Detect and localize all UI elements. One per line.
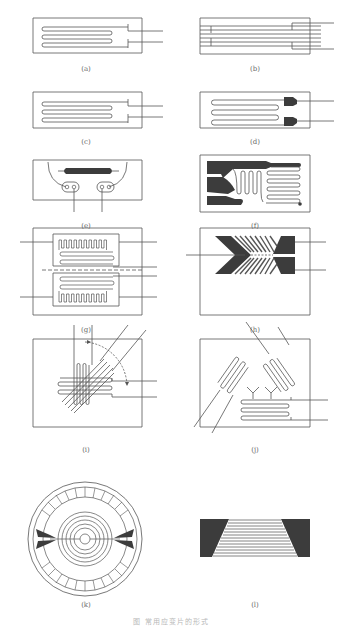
panel-c: (c)	[0, 90, 171, 160]
panel-label: (b)	[235, 65, 275, 73]
panel-label: (h)	[235, 326, 275, 334]
strain-gauge-c-drawing	[0, 90, 171, 160]
panel-label: (c)	[66, 138, 106, 146]
figure-caption: 图 常用应变片的形式	[0, 616, 342, 626]
panel-label: (d)	[235, 138, 275, 146]
panel-l: (l)	[171, 465, 342, 615]
panel-label: (e)	[66, 222, 106, 230]
panel-label: (i)	[66, 446, 106, 454]
panel-d: (d)	[171, 90, 342, 160]
panel-k: (k)	[0, 465, 171, 615]
panel-g: (g)	[0, 240, 171, 345]
strain-gauge-l-drawing	[171, 465, 342, 615]
panel-label: (g)	[66, 326, 106, 334]
panel-label: (f)	[235, 222, 275, 230]
panel-label: (l)	[235, 601, 275, 609]
strain-gauge-k-drawing	[0, 465, 171, 615]
panel-i: (i)	[0, 345, 171, 465]
panel-label: (k)	[66, 601, 106, 609]
panel-h: (h)	[171, 240, 342, 345]
strain-gauge-d-drawing	[171, 90, 342, 160]
panel-j: (j)	[171, 345, 342, 465]
panel-label: (j)	[235, 446, 275, 454]
panel-label: (a)	[66, 65, 106, 73]
